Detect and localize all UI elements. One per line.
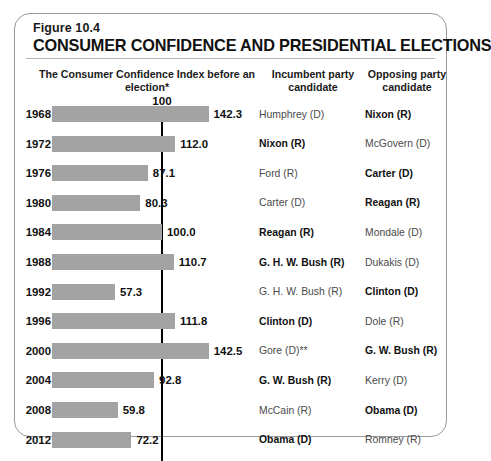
opposing-candidate: Dole (R) <box>365 316 404 327</box>
row-year-label: 1968 <box>15 108 51 120</box>
incumbent-candidate: Obama (D) <box>259 434 312 445</box>
row-year-label: 1984 <box>15 226 51 238</box>
row-year-label: 2000 <box>15 345 51 357</box>
incumbent-candidate: Nixon (R) <box>259 138 305 149</box>
opposing-candidate: Obama (D) <box>365 405 418 416</box>
incumbent-candidate: Ford (R) <box>259 168 298 179</box>
bar-value-label: 111.8 <box>180 315 207 327</box>
incumbent-candidate: Carter (D) <box>259 197 305 208</box>
confidence-index-bar <box>52 313 175 329</box>
confidence-index-bar <box>52 106 209 122</box>
confidence-index-bar <box>52 165 148 181</box>
figure-card: Figure 10.4 CONSUMER CONFIDENCE AND PRES… <box>14 13 447 437</box>
confidence-index-bar <box>52 284 115 300</box>
incumbent-candidate: G. W. Bush (R) <box>259 375 331 386</box>
bar-value-label: 142.5 <box>214 345 243 357</box>
row-year-label: 2012 <box>15 434 51 446</box>
table-row: 201272.2Obama (D)Romney (R) <box>15 428 446 458</box>
bar-value-label: 57.3 <box>120 286 142 298</box>
opposing-candidate: Kerry (D) <box>365 375 407 386</box>
incumbent-candidate: G. H. W. Bush (R) <box>259 286 342 297</box>
bar-value-label: 110.7 <box>179 256 207 268</box>
row-year-label: 1996 <box>15 315 51 327</box>
confidence-index-bar <box>52 343 209 359</box>
incumbent-candidate: G. H. W. Bush (R) <box>259 257 344 268</box>
opposing-candidate: Clinton (D) <box>365 286 418 297</box>
confidence-index-bar <box>52 402 118 418</box>
opposing-candidate: G. W. Bush (R) <box>365 345 437 356</box>
opposing-candidate: Nixon (R) <box>365 109 411 120</box>
table-row: 1988110.7G. H. W. Bush (R)Dukakis (D) <box>15 250 446 280</box>
figure-title: CONSUMER CONFIDENCE AND PRESIDENTIAL ELE… <box>33 36 491 55</box>
table-row: 198080.3Carter (D)Reagan (R) <box>15 191 446 221</box>
confidence-index-bar <box>52 224 162 240</box>
table-row: 1972112.0Nixon (R)McGovern (D) <box>15 132 446 162</box>
confidence-index-bar <box>52 136 175 152</box>
row-year-label: 1980 <box>15 197 51 209</box>
table-row: 197687.1Ford (R)Carter (D) <box>15 161 446 191</box>
opposing-candidate: Carter (D) <box>365 168 413 179</box>
opposing-candidate: Mondale (D) <box>365 227 422 238</box>
bar-value-label: 142.3 <box>214 108 243 120</box>
column-header-index: The Consumer Confidence Index before an … <box>33 68 261 93</box>
confidence-index-bar <box>52 372 154 388</box>
bar-value-label: 72.2 <box>136 434 158 446</box>
table-row: 1968142.3Humphrey (D)Nixon (R) <box>15 102 446 132</box>
bar-value-label: 80.3 <box>145 197 167 209</box>
table-row: 2000142.5Gore (D)**G. W. Bush (R) <box>15 339 446 369</box>
row-year-label: 1992 <box>15 286 51 298</box>
bar-value-label: 100.0 <box>167 226 196 238</box>
column-header-opposing: Opposing party candidate <box>365 68 449 93</box>
bar-value-label: 112.0 <box>180 138 208 150</box>
opposing-candidate: Romney (R) <box>365 434 421 445</box>
opposing-candidate: Dukakis (D) <box>365 257 419 268</box>
table-row: 200859.8McCain (R)Obama (D) <box>15 398 446 428</box>
table-row: 199257.3G. H. W. Bush (R)Clinton (D) <box>15 280 446 310</box>
bar-value-label: 87.1 <box>153 167 175 179</box>
row-year-label: 1988 <box>15 256 51 268</box>
table-row: 1996111.8Clinton (D)Dole (R) <box>15 309 446 339</box>
table-row: 1984100.0Reagan (R)Mondale (D) <box>15 220 446 250</box>
opposing-candidate: McGovern (D) <box>365 138 430 149</box>
opposing-candidate: Reagan (R) <box>365 197 420 208</box>
figure-number: Figure 10.4 <box>33 21 100 35</box>
confidence-index-bar <box>52 195 140 211</box>
confidence-index-bar <box>52 432 131 448</box>
incumbent-candidate: Humphrey (D) <box>259 109 324 120</box>
row-year-label: 2004 <box>15 374 51 386</box>
row-year-label: 1972 <box>15 138 51 150</box>
bar-value-label: 92.8 <box>159 374 181 386</box>
column-header-incumbent: Incumbent party candidate <box>259 68 367 93</box>
row-year-label: 1976 <box>15 167 51 179</box>
incumbent-candidate: McCain (R) <box>259 405 312 416</box>
row-year-label: 2008 <box>15 404 51 416</box>
incumbent-candidate: Reagan (R) <box>259 227 314 238</box>
table-row: 200492.8G. W. Bush (R)Kerry (D) <box>15 368 446 398</box>
incumbent-candidate: Clinton (D) <box>259 316 312 327</box>
bar-value-label: 59.8 <box>123 404 145 416</box>
confidence-index-bar <box>52 254 174 270</box>
incumbent-candidate: Gore (D)** <box>259 345 308 356</box>
title-divider <box>26 58 435 59</box>
